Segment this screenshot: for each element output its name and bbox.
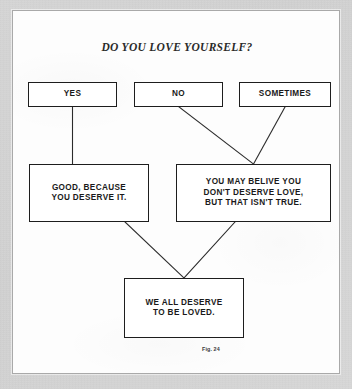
figure-caption: Fig. 24 (202, 346, 220, 352)
node-sometimes-label: SOMETIMES (259, 89, 311, 100)
node-we-all-deserve: WE ALL DESERVE TO BE LOVED. (124, 278, 244, 338)
node-no-label: NO (172, 89, 185, 100)
node-good-because-label: GOOD, BECAUSE YOU DESERVE IT. (51, 183, 126, 204)
edge-sometimes-to-belive (254, 107, 286, 164)
node-yes: YES (28, 82, 117, 107)
figure-panel: DO YOU LOVE YOURSELF? YES NO SOMETIMES (12, 10, 340, 374)
edge-belive-to-deserve (184, 222, 235, 278)
edge-good-to-deserve (125, 222, 184, 278)
node-yes-label: YES (64, 89, 81, 100)
node-we-all-deserve-label: WE ALL DESERVE TO BE LOVED. (145, 298, 222, 319)
edge-no-to-belive (179, 107, 254, 164)
node-you-may-belive-label: YOU MAY BELIVE YOU DON'T DESERVE LOVE, B… (204, 177, 304, 209)
node-no: NO (134, 82, 223, 107)
node-good-because: GOOD, BECAUSE YOU DESERVE IT. (29, 164, 149, 222)
scanned-page: DO YOU LOVE YOURSELF? YES NO SOMETIMES (0, 0, 352, 389)
node-sometimes: SOMETIMES (239, 82, 331, 107)
node-you-may-belive: YOU MAY BELIVE YOU DON'T DESERVE LOVE, B… (176, 164, 331, 222)
